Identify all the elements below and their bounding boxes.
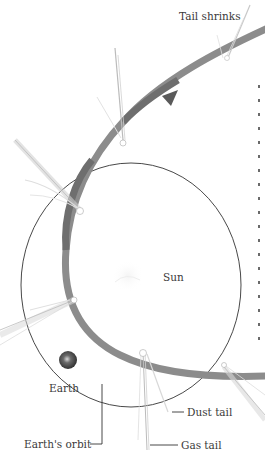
label-earth: Earth [49,383,79,394]
label-dust-tail: Dust tail [187,407,232,418]
label-sun: Sun [163,272,184,283]
label-gas-tail: Gas tail [181,440,222,451]
leader-lines [90,384,184,445]
label-tail-shrinks: Tail shrinks [179,11,241,22]
label-earths-orbit: Earth's orbit [24,439,91,450]
cropped-margin-text [258,85,262,355]
comet-orbit-diagram: Tail shrinks Sun Earth Dust tail Gas tai… [0,0,265,453]
earth-icon [59,351,77,369]
comet-left-lower [0,297,77,345]
sun-icon [112,260,144,292]
